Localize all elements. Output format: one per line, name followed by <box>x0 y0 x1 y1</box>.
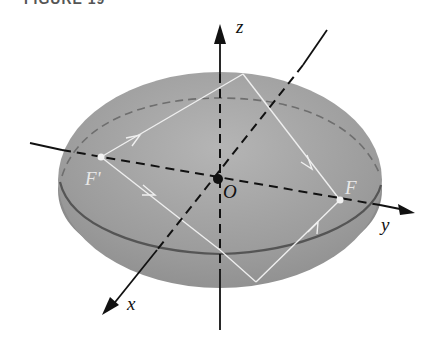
z-axis-label: z <box>236 16 243 38</box>
origin-point <box>213 174 223 184</box>
y-axis-back <box>30 143 62 150</box>
focus-right-label: F <box>345 177 357 199</box>
focus-left-label: F' <box>85 168 101 190</box>
z-axis-arrow-icon <box>214 24 226 44</box>
ellipsoid-diagram <box>0 0 435 343</box>
y-axis-arrow-icon <box>398 204 415 215</box>
origin-label: O <box>223 181 237 203</box>
y-axis-label: y <box>381 214 389 236</box>
x-axis-label: x <box>127 293 135 315</box>
x-axis-back <box>303 30 327 65</box>
focus-left-point <box>98 154 105 161</box>
focus-right-point <box>337 197 344 204</box>
